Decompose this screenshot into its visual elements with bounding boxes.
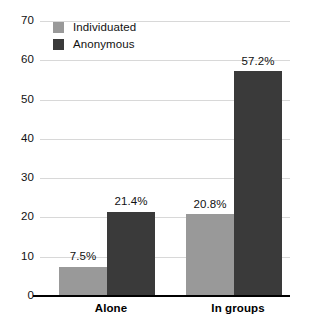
plot-area: 7.5% 21.4% 20.8% 57.2%: [40, 21, 290, 296]
legend-item-individuated: Individuated: [53, 20, 136, 35]
y-tick-label-20: 20: [6, 212, 34, 224]
bar-value-label-alone-individuated: 7.5%: [59, 251, 107, 263]
y-tick-label-10: 10: [6, 251, 34, 263]
y-tick-label-30: 30: [6, 172, 34, 184]
legend-label-anonymous: Anonymous: [73, 39, 135, 51]
y-tick-label-0: 0: [6, 290, 34, 302]
legend-swatch-icon-anonymous: [53, 39, 64, 50]
y-axis-zero-tick: [33, 295, 40, 297]
bar-value-label-ingroups-anonymous: 57.2%: [234, 56, 282, 68]
x-axis-line: [40, 295, 290, 297]
bar-alone-anonymous: [107, 212, 155, 296]
legend-swatch-icon-individuated: [53, 22, 64, 33]
legend: Individuated Anonymous: [53, 20, 136, 54]
bar-ingroups-individuated: [186, 214, 234, 296]
legend-item-anonymous: Anonymous: [53, 37, 136, 52]
bar-alone-individuated: [59, 267, 107, 296]
bar-value-label-ingroups-individuated: 20.8%: [186, 199, 234, 211]
bar-chart: #chart-root > div[data-name="gridline-gr…: [0, 0, 311, 321]
y-tick-label-50: 50: [6, 94, 34, 106]
x-axis-label-in-groups: In groups: [186, 303, 290, 315]
y-tick-label-70: 70: [6, 15, 34, 27]
legend-label-individuated: Individuated: [73, 22, 136, 34]
y-tick-label-60: 60: [6, 55, 34, 67]
bar-value-label-alone-anonymous: 21.4%: [107, 196, 155, 208]
x-axis-label-alone: Alone: [59, 303, 163, 315]
y-tick-label-40: 40: [6, 133, 34, 145]
bar-ingroups-anonymous: [234, 71, 282, 296]
